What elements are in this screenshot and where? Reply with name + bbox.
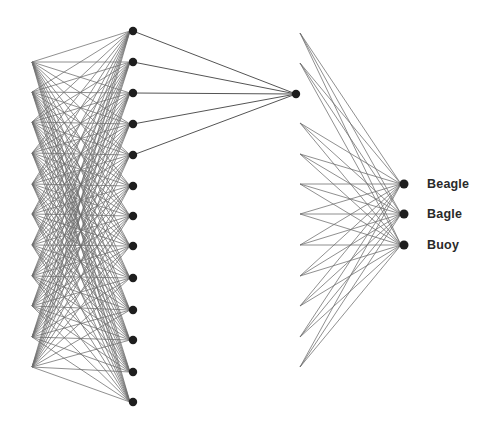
hidden-node — [129, 58, 137, 66]
edge — [300, 184, 401, 276]
hidden-hub-edges — [133, 31, 296, 155]
edge — [300, 184, 401, 337]
edge — [300, 184, 401, 367]
hidden-node — [129, 182, 137, 190]
edge — [300, 214, 401, 367]
hidden-node — [129, 368, 137, 376]
output-layer-nodes — [400, 180, 409, 250]
output-label-bagle: Bagle — [427, 207, 462, 221]
neural-network-diagram — [0, 0, 499, 429]
edge — [300, 245, 401, 367]
hidden-node — [129, 27, 137, 35]
output-node — [400, 241, 409, 250]
hidden-node — [129, 151, 137, 159]
hidden-node — [129, 336, 137, 344]
hidden-node — [129, 274, 137, 282]
output-node — [400, 210, 409, 219]
edge — [133, 93, 296, 94]
output-label-beagle: Beagle — [427, 177, 469, 191]
hidden-node — [129, 120, 137, 128]
hidden-node — [129, 89, 137, 97]
edge — [300, 123, 401, 214]
input-hidden-edges — [32, 31, 130, 402]
edge — [133, 94, 296, 155]
edge — [300, 154, 401, 245]
edge — [133, 94, 296, 124]
edge — [300, 33, 401, 184]
hidden-node — [129, 242, 137, 250]
edge — [300, 63, 401, 184]
edge — [32, 31, 130, 62]
edge — [300, 123, 401, 184]
edge — [300, 63, 401, 214]
hidden-layer-nodes — [129, 27, 137, 406]
hub-node — [292, 90, 300, 98]
hidden-node — [129, 398, 137, 406]
edge — [133, 31, 296, 94]
output-node — [400, 180, 409, 189]
edge — [32, 367, 130, 402]
hidden-node — [129, 212, 137, 220]
edge — [300, 154, 401, 184]
hidden-node — [129, 306, 137, 314]
fan-output-edges — [300, 33, 401, 367]
hub-node-circle — [292, 90, 300, 98]
edge — [133, 62, 296, 94]
output-label-buoy: Buoy — [427, 238, 459, 252]
